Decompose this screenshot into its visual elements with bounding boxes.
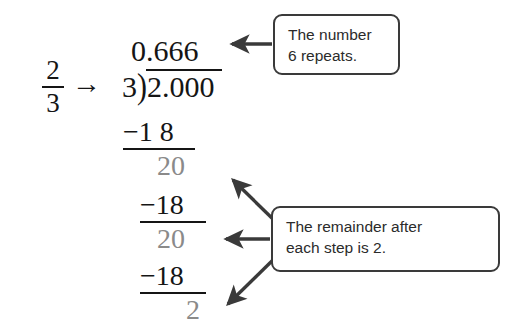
divisor-value: 3 xyxy=(122,70,137,103)
fraction-numerator: 2 xyxy=(36,56,70,85)
callout-repeats-line-1: The number xyxy=(288,25,386,46)
callout-remainder-line-1: The remainder after xyxy=(286,217,486,238)
fraction-denominator: 3 xyxy=(36,89,70,118)
arrow-to-remainder-3 xyxy=(228,257,276,304)
callout-repeats-line-2: 6 repeats. xyxy=(288,46,386,67)
callout-remainder-is-two: The remainder after each step is 2. xyxy=(271,206,500,272)
divisor-dividend-row: 3)2.000 xyxy=(122,72,215,102)
fraction-two-thirds: 2 3 xyxy=(36,56,70,117)
arrow-layer xyxy=(0,0,517,336)
subtraction-row-3: −18 xyxy=(140,262,184,290)
subtraction-row-2: −18 xyxy=(140,191,184,219)
subtraction-row-1: −1 8 xyxy=(123,118,174,146)
dividend-value: 2.000 xyxy=(147,70,215,103)
maps-to-arrow-icon: → xyxy=(72,69,101,98)
remainder-row-3: 2 xyxy=(186,296,200,324)
division-bracket-icon: ) xyxy=(137,67,147,104)
callout-remainder-line-2: each step is 2. xyxy=(286,238,486,259)
remainder-row-2: 20 xyxy=(157,225,185,253)
figure-canvas: 2 3 → 0.666 3)2.000 −1 8 20 −18 20 −18 2 xyxy=(0,0,517,336)
quotient-value: 0.666 xyxy=(131,36,199,66)
callout-number-repeats: The number 6 repeats. xyxy=(273,14,400,75)
remainder-row-1: 20 xyxy=(157,152,185,180)
arrow-to-remainder-1 xyxy=(233,180,276,222)
